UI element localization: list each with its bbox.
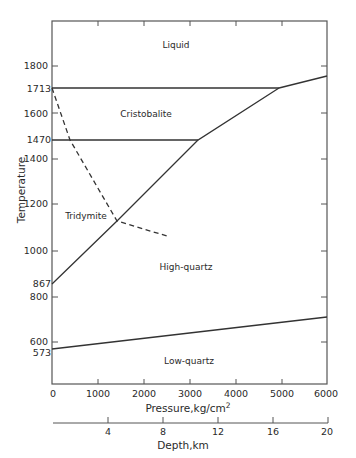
- x-tick-2000: 2000: [132, 388, 156, 399]
- x-tick-1000: 1000: [86, 388, 110, 399]
- x-tick-6000: 6000: [314, 388, 338, 399]
- x-tick-0: 0: [50, 388, 56, 399]
- region-high-quartz-label: High-quartz: [160, 262, 213, 272]
- region-liquid-label: Liquid: [162, 40, 189, 50]
- depth-axis: 4 8 12 16 20 Depth,km: [53, 417, 333, 451]
- x-tick-labels: 0 1000 2000 3000 4000 5000 6000: [50, 388, 338, 399]
- bottom-ticks: [98, 379, 282, 384]
- y-axis-title: Temperature: [15, 157, 27, 225]
- y-tick-1713: 1713: [27, 83, 51, 94]
- right-ticks: [321, 66, 327, 342]
- liquid-boundary-line: [52, 76, 327, 88]
- y-tick-1200: 1200: [24, 198, 48, 209]
- y-tick-1470: 1470: [27, 134, 51, 145]
- y-tick-867: 867: [33, 278, 51, 289]
- x-tick-5000: 5000: [270, 388, 294, 399]
- depth-axis-title: Depth,km: [157, 439, 209, 451]
- y-tick-1600: 1600: [24, 108, 48, 119]
- top-ticks: [98, 21, 282, 26]
- depth-tick-20: 20: [321, 426, 333, 437]
- x-tick-4000: 4000: [224, 388, 248, 399]
- plot-frame: [52, 21, 327, 384]
- region-low-quartz-label: Low-quartz: [164, 356, 214, 366]
- y-tick-1000: 1000: [24, 245, 48, 256]
- y-tick-573: 573: [33, 347, 51, 358]
- y-tick-1800: 1800: [24, 60, 48, 71]
- x-tick-3000: 3000: [178, 388, 202, 399]
- depth-tick-12: 12: [212, 426, 224, 437]
- depth-tick-16: 16: [267, 426, 279, 437]
- depth-tick-8: 8: [160, 426, 166, 437]
- y-tick-600: 600: [30, 336, 48, 347]
- y-tick-800: 800: [30, 291, 48, 302]
- y-tick-labels: 1800 1713 1600 1470 1400 1200 1000 867 8…: [24, 60, 51, 358]
- depth-tick-4: 4: [105, 426, 111, 437]
- region-cristobalite-label: Cristobalite: [120, 109, 172, 119]
- y-tick-1400: 1400: [24, 153, 48, 164]
- region-tridymite-label: Tridymite: [64, 211, 107, 221]
- quartz-inversion-line: [52, 317, 327, 349]
- left-ticks: [52, 66, 58, 342]
- phase-diagram: Liquid Cristobalite Tridymite High-quart…: [0, 0, 356, 458]
- x-axis-title: Pressure,kg/cm2: [145, 401, 230, 414]
